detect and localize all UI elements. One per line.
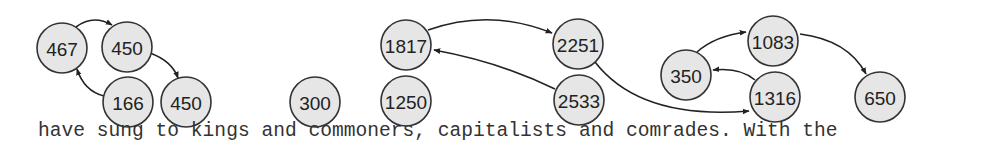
node-n350: 350	[661, 50, 711, 100]
node-label: 650	[864, 88, 896, 109]
node-label: 1316	[754, 88, 796, 109]
edge-arrow-n350-to-n1083	[697, 32, 746, 52]
node-n2251: 2251	[553, 19, 603, 69]
caption-text: have sung to kings and commoners, capita…	[38, 120, 838, 142]
node-n650: 650	[855, 72, 905, 122]
edge-arrow-n1817-to-n2251	[428, 20, 552, 33]
node-label: 1250	[385, 92, 427, 113]
edge-arrow-n2533-to-n1817	[434, 50, 555, 89]
node-n1817: 1817	[381, 20, 431, 70]
node-label: 350	[670, 66, 702, 87]
node-label: 450	[111, 38, 143, 59]
node-n1083: 1083	[748, 16, 798, 66]
node-label: 300	[299, 93, 331, 114]
edge-arrow-n450a-to-n450b	[150, 53, 178, 78]
edge-arrow-n166-to-n467	[77, 69, 104, 96]
node-label: 450	[170, 93, 202, 114]
node-n450a: 450	[102, 22, 152, 72]
node-n1316: 1316	[750, 72, 800, 122]
node-n1250: 1250	[381, 76, 431, 126]
node-n467: 467	[37, 23, 87, 73]
node-label: 2533	[558, 91, 600, 112]
node-label: 467	[46, 39, 78, 60]
node-label: 1817	[385, 36, 427, 57]
node-label: 1083	[752, 32, 794, 53]
edge-arrow-n467-to-n450a	[76, 20, 112, 27]
node-n2533: 2533	[554, 75, 604, 125]
node-label: 166	[112, 93, 144, 114]
node-label: 2251	[557, 35, 599, 56]
nodes-group: 4674501664503001250181722512533350108313…	[37, 16, 905, 127]
edge-arrow-n1316-to-n350	[713, 69, 755, 80]
edge-arrow-n1083-to-n650	[800, 34, 866, 74]
